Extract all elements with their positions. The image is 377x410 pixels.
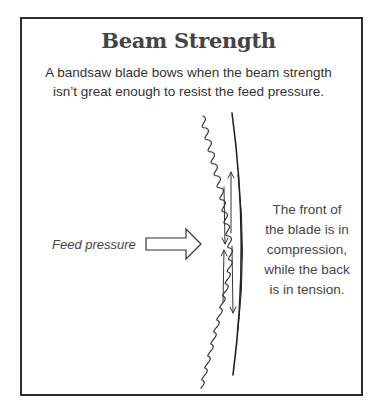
feed-pressure-arrow-icon [146, 229, 201, 259]
blade-back-icon [232, 113, 243, 375]
blade-teeth-icon [201, 116, 233, 388]
bandsaw-diagram [0, 0, 377, 410]
